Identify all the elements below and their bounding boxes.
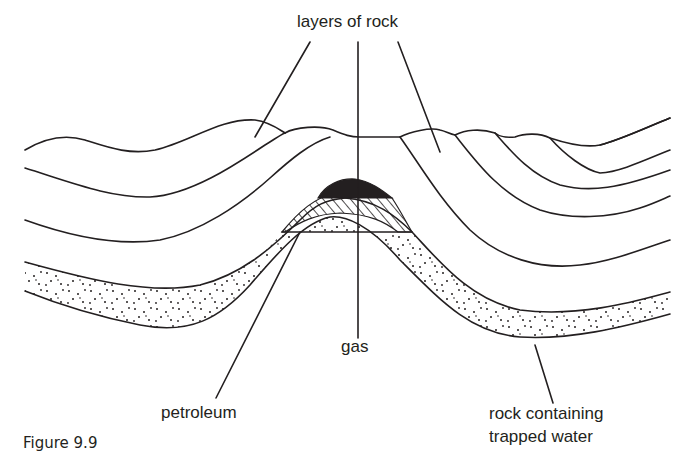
- figure-caption: Figure 9.9: [23, 434, 97, 452]
- label-trapped-water: trapped water: [489, 427, 593, 447]
- trapped-water-layer: [25, 217, 670, 338]
- label-layers-of-rock: layers of rock: [297, 12, 398, 32]
- anticline-diagram: [0, 0, 687, 472]
- label-rock-containing: rock containing: [489, 404, 603, 424]
- gas-layer: [318, 179, 392, 198]
- label-petroleum: petroleum: [161, 403, 237, 423]
- label-gas: gas: [341, 337, 368, 357]
